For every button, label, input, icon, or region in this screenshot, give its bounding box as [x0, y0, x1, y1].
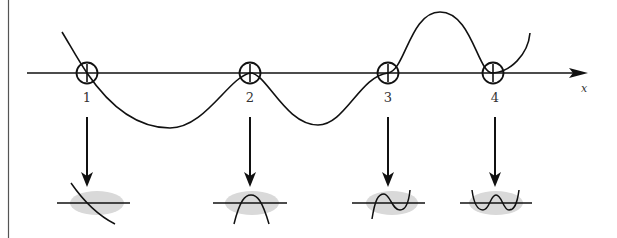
zoom-inset-2: [213, 191, 287, 224]
root-label-3: 3: [384, 91, 392, 104]
down-arrow-3: [382, 117, 394, 187]
root-label-1: 1: [83, 91, 91, 104]
zoom-inset-4: [460, 190, 532, 215]
root-label-2: 2: [246, 91, 254, 104]
down-arrow-2: [244, 117, 256, 187]
down-arrow-1: [81, 117, 93, 187]
root-label-4: 4: [491, 91, 499, 104]
function-curve: [62, 12, 530, 128]
zoom-inset-1: [57, 183, 130, 224]
x-axis-label: x: [581, 83, 587, 94]
roots-diagram: 1 2 3 4 x: [0, 0, 617, 238]
zoom-inset-3: [352, 190, 425, 219]
down-arrow-4: [489, 117, 501, 187]
diagram-canvas: [0, 0, 617, 238]
